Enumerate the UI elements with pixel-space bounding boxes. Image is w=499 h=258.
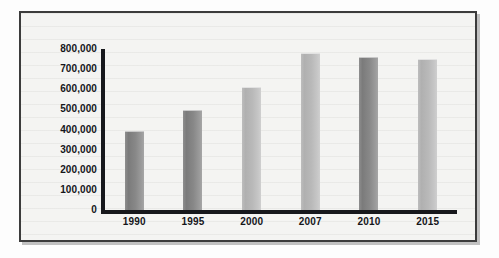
bar-2000 <box>242 87 261 210</box>
bar-1990 <box>125 131 144 210</box>
x-axis-tick-label: 1995 <box>164 216 223 227</box>
y-axis-tick-label: 0 <box>39 205 97 215</box>
bar-chart-plot: 800,000700,000600,000500,000400,000300,0… <box>21 13 475 240</box>
bar-slot <box>105 49 164 210</box>
y-axis-tick-label: 400,000 <box>39 125 97 135</box>
bar-2015 <box>418 59 437 210</box>
y-axis-tick-label: 700,000 <box>39 64 97 74</box>
bar-2007 <box>301 53 320 210</box>
bar-1995 <box>183 110 202 210</box>
bar-slot <box>340 49 399 210</box>
scanned-page: 800,000700,000600,000500,000400,000300,0… <box>0 0 499 258</box>
y-axis-tick-label: 800,000 <box>39 44 97 54</box>
y-axis-tick-label: 300,000 <box>39 145 97 155</box>
chart-frame: 800,000700,000600,000500,000400,000300,0… <box>19 11 477 242</box>
bar-slot <box>398 49 457 210</box>
x-axis-tick-label: 2007 <box>281 216 340 227</box>
y-axis-tick-label: 200,000 <box>39 165 97 175</box>
y-axis-tick-label: 100,000 <box>39 185 97 195</box>
y-axis-tick-labels: 800,000700,000600,000500,000400,000300,0… <box>39 13 97 240</box>
x-axis-tick-label: 2010 <box>340 216 399 227</box>
bar-slot <box>222 49 281 210</box>
bar-series <box>105 49 457 210</box>
x-axis-line <box>101 210 457 214</box>
bar-2010 <box>359 57 378 210</box>
x-axis-tick-label: 2000 <box>222 216 281 227</box>
bar-slot <box>164 49 223 210</box>
y-axis-tick-label: 600,000 <box>39 84 97 94</box>
x-axis-tick-label: 1990 <box>105 216 164 227</box>
x-axis-tick-label: 2015 <box>398 216 457 227</box>
bar-slot <box>281 49 340 210</box>
x-axis-tick-labels: 199019952000200720102015 <box>105 216 457 234</box>
y-axis-tick-label: 500,000 <box>39 104 97 114</box>
